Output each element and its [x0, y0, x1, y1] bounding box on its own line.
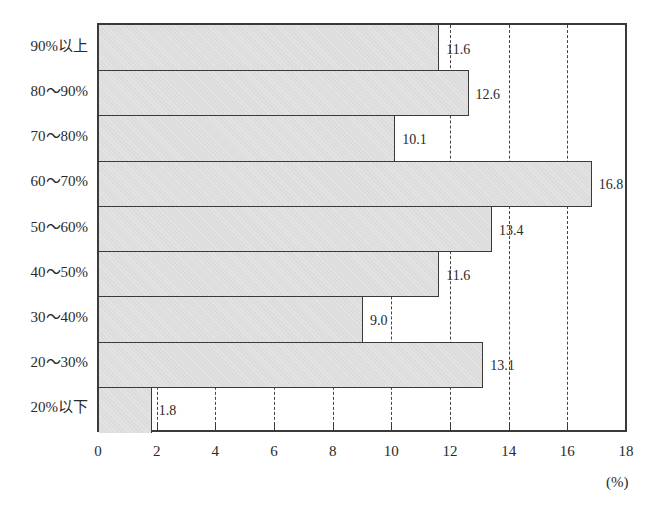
x-tick-label: 14 [494, 442, 524, 460]
x-tick-label: 0 [83, 442, 113, 460]
category-label: 20%以下 [31, 398, 89, 416]
x-tick-mark [567, 423, 568, 430]
bar-value-label: 12.6 [476, 87, 501, 103]
bar-value-label: 16.8 [599, 177, 624, 193]
bar [99, 115, 395, 161]
x-tick-mark [157, 423, 158, 430]
x-tick-mark [274, 423, 275, 430]
category-label: 50～60% [31, 218, 89, 236]
x-tick-label: 10 [376, 442, 406, 460]
x-tick-mark [450, 423, 451, 430]
x-axis-unit-label: (%) [606, 474, 629, 491]
bar [99, 25, 439, 71]
bar-value-label: 13.4 [499, 223, 524, 239]
bar [99, 70, 469, 116]
x-tick-label: 2 [142, 442, 172, 460]
x-tick-label: 12 [435, 442, 465, 460]
x-tick-mark [391, 423, 392, 430]
bar [99, 342, 483, 388]
plot-area: 11.612.610.116.813.411.69.013.11.8 [97, 23, 627, 432]
category-label: 30～40% [31, 308, 89, 326]
category-label: 90%以上 [31, 37, 89, 55]
bar-value-label: 13.1 [490, 358, 515, 374]
bar [99, 251, 439, 297]
bar [99, 387, 152, 433]
category-label: 70～80% [31, 127, 89, 145]
x-tick-label: 6 [259, 442, 289, 460]
x-tick-label: 8 [318, 442, 348, 460]
x-tick-label: 16 [552, 442, 582, 460]
category-label: 40～50% [31, 263, 89, 281]
bar-value-label: 10.1 [402, 132, 427, 148]
bar-value-label: 11.6 [446, 42, 470, 58]
gridline [567, 25, 568, 430]
x-tick-mark [509, 423, 510, 430]
category-label: 20～30% [31, 353, 89, 371]
bar [99, 206, 492, 252]
category-label: 80～90% [31, 82, 89, 100]
x-tick-label: 18 [611, 442, 641, 460]
bar-value-label: 11.6 [446, 268, 470, 284]
x-tick-label: 4 [200, 442, 230, 460]
bar-value-label: 1.8 [159, 403, 177, 419]
bar-value-label: 9.0 [370, 313, 388, 329]
x-tick-mark [215, 423, 216, 430]
bar [99, 296, 363, 342]
horizontal-bar-chart: 11.612.610.116.813.411.69.013.11.8 90%以上… [0, 0, 656, 508]
category-label: 60～70% [31, 172, 89, 190]
bar [99, 161, 592, 207]
x-tick-mark [333, 423, 334, 430]
